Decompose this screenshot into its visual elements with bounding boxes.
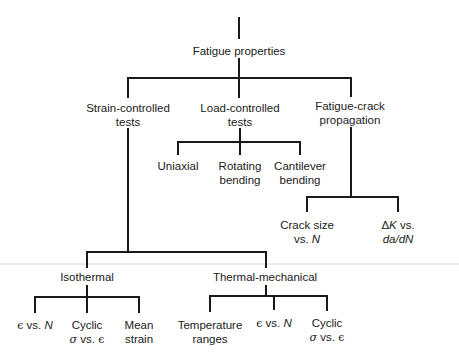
node-label: Cantilever [274,159,326,173]
node-label: ΔK vs. [381,218,414,232]
thermal-mechanical-bus [209,295,328,297]
node-delta-k-vs-dadn: ΔK vs. da/dN [381,218,414,246]
vs-text: vs. [397,219,415,231]
vs-text: vs. [23,319,44,331]
node-label: da/dN [381,232,414,246]
node-label: Temperature [178,318,243,332]
node-label: Load-controlled [200,101,279,115]
node-label: Fatigue-crack [315,99,385,113]
node-rotating-bending: Rotating bending [219,159,262,187]
strain-drop [127,77,129,98]
node-fatigue-crack-propagation: Fatigue-crack propagation [315,99,385,127]
node-label: ϵ vs. N [256,316,292,331]
node-load-controlled-tests: Load-controlled tests [200,101,279,129]
strain-bus [86,251,267,253]
node-label: ϵ vs. N [17,318,53,333]
node-label: propagation [315,113,385,127]
node-label: Fatigue properties [193,44,286,58]
root-stem [238,17,240,39]
iso-cyclic-drop [86,296,88,313]
crack-connector [350,127,352,197]
tm-temp-drop [209,295,211,312]
vs-text: vs. [262,317,283,329]
node-label: σ vs. ϵ [310,330,345,345]
fatigue-properties-diagram: Fatigue properties Strain-controlled tes… [0,0,459,353]
sigma-symbol: σ [310,331,318,344]
var-n: N [44,319,52,331]
node-label: Cyclic [310,316,345,330]
node-label: Strain-controlled [86,101,170,115]
crack-drop [350,77,352,97]
vs-text: vs. [317,331,338,343]
node-strain-controlled-tests: Strain-controlled tests [86,101,170,129]
node-crack-size-vs-n: Crack size vs. N [280,218,334,246]
var-n: N [312,233,320,245]
node-fatigue-properties: Fatigue properties [193,44,286,58]
node-label: Crack size [280,218,334,232]
tm-eps-drop [273,295,275,310]
epsilon-symbol: ϵ [98,333,104,346]
tm-cyclic-drop [326,295,328,311]
crack-size-drop [306,196,308,212]
strain-connector [127,128,129,253]
delta-symbol: Δ [381,219,389,231]
node-label: Isothermal [60,270,114,284]
node-tm-cyclic-sigma-vs-eps: Cyclic σ vs. ϵ [310,316,345,345]
node-label: ranges [178,332,243,346]
node-iso-eps-vs-n: ϵ vs. N [17,318,53,333]
node-cantilever-bending: Cantilever bending [274,159,326,187]
delta-k-drop [397,196,399,212]
node-label: σ vs. ϵ [70,332,105,347]
uniaxial-drop [177,141,179,155]
isothermal-drop [86,251,88,268]
node-label: strain [125,332,154,346]
node-label: tests [86,115,170,129]
scan-artifact-line [0,263,459,265]
iso-mean-drop [138,296,140,313]
node-label: Cyclic [70,318,105,332]
level1-bus [127,77,352,79]
node-label: bending [274,173,326,187]
node-label: Uniaxial [158,159,199,173]
node-iso-cyclic-sigma-vs-eps: Cyclic σ vs. ϵ [70,318,105,347]
node-label: vs. N [280,232,334,246]
vs-text: vs. [294,233,312,245]
iso-eps-drop [34,296,36,313]
epsilon-symbol: ϵ [338,331,344,344]
thermal-mechanical-drop [265,251,267,268]
vs-text: vs. [77,333,98,345]
node-isothermal: Isothermal [60,270,114,284]
node-thermal-mechanical: Thermal-mechanical [213,270,317,284]
node-label: Thermal-mechanical [213,270,317,284]
node-label: bending [219,173,262,187]
var-n: N [283,317,291,329]
node-uniaxial: Uniaxial [158,159,199,173]
node-tm-temperature-ranges: Temperature ranges [178,318,243,346]
node-label: tests [200,115,279,129]
node-tm-eps-vs-n: ϵ vs. N [256,316,292,331]
sigma-symbol: σ [70,333,78,346]
cantilever-drop [299,141,301,155]
load-bus [177,141,301,143]
node-label: Rotating [219,159,262,173]
node-label: Mean [125,318,154,332]
node-iso-mean-strain: Mean strain [125,318,154,346]
crack-bus [306,196,399,198]
